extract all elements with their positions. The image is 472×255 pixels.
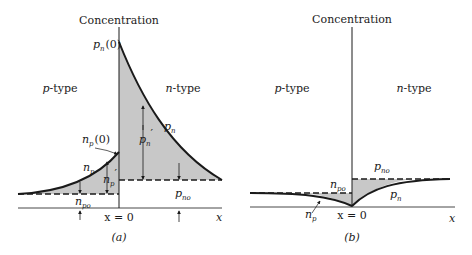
x-label-a: x [216, 211, 223, 224]
caption-b: (b) [344, 231, 360, 244]
origin-label-a: x = 0 [104, 211, 133, 224]
pno-label-a: pno [175, 187, 191, 202]
caption-a: (a) [111, 231, 126, 244]
npo-label-a: npo [75, 195, 91, 210]
np0-pointer [95, 148, 117, 154]
axis-label-b: Concentration [312, 13, 392, 26]
panel-b: Concentration p-type n-type pno npo pn n… [250, 13, 456, 244]
axis-label-a: Concentration [79, 14, 159, 27]
pn-curve-label-a: pn [164, 120, 176, 135]
pn-curve-label-b: pn [390, 188, 402, 203]
pno-label-b: pno [374, 160, 390, 175]
n-type-label-b: n-type [397, 82, 432, 95]
p-type-label-b: p-type [275, 82, 310, 95]
origin-label-b: x = 0 [337, 209, 366, 222]
np-curve-label-b: np [305, 208, 317, 223]
pn-excess-shade [119, 42, 222, 180]
np0-label: np(0) [82, 133, 110, 148]
pn0-label: pn(0) [93, 38, 121, 53]
p-type-label-a: p-type [43, 82, 78, 95]
n-type-label-a: n-type [166, 82, 201, 95]
panel-a: Concentration p-type n-type pn(0) np(0) … [18, 14, 223, 244]
np-curve-label-a: np [83, 161, 95, 176]
diagram-canvas: Concentration p-type n-type pn(0) np(0) … [0, 0, 472, 255]
x-label-b: x [449, 212, 456, 225]
npo-label-b: npo [330, 178, 346, 193]
